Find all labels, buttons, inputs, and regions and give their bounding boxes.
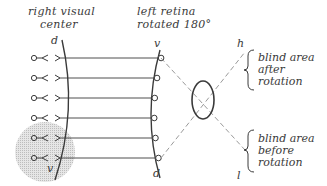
upper-note-line3: rotation	[258, 76, 315, 88]
retina-bottom-pole: d	[153, 168, 160, 179]
diagram-stage: right visual center left retina rotated …	[0, 0, 327, 186]
retina-title-line2: rotated 180°	[137, 19, 211, 30]
lower-brace	[244, 130, 254, 172]
projection-line-up	[161, 52, 245, 158]
neuron-cell-icon	[31, 75, 36, 80]
neuron-cell-icon	[31, 55, 36, 60]
retina-cell-icon	[151, 115, 157, 121]
center-top-pole: d	[51, 35, 58, 46]
neuron-cell-icon	[31, 95, 36, 100]
synapse-left-icon	[42, 115, 48, 121]
retina-title-line1: left retina	[137, 6, 211, 17]
retina-cell-icon	[154, 75, 160, 81]
field-bottom-pole: l	[237, 170, 241, 181]
neuron-cell-icon	[31, 115, 36, 120]
synapse-right-icon	[55, 55, 60, 61]
synapse-right-icon	[55, 95, 60, 101]
synapse-right-icon	[55, 75, 60, 81]
synapse-left-icon	[42, 75, 48, 81]
neuron-row	[31, 115, 157, 121]
lens-ellipse	[192, 81, 214, 119]
synapse-left-icon	[42, 95, 48, 101]
blind-area-after-note: blind area after rotation	[258, 52, 315, 88]
synapse-right-icon	[55, 115, 60, 121]
retina-title: left retina rotated 180°	[137, 6, 211, 30]
synapse-left-icon	[42, 55, 48, 61]
visual-center-title-line2: center	[40, 19, 95, 30]
projection-line-down	[161, 58, 245, 150]
neuron-row	[31, 95, 157, 101]
blind-area-before-note: blind area before rotation	[258, 133, 315, 169]
upper-brace	[244, 50, 254, 90]
center-bottom-pole: v	[47, 163, 53, 174]
retina-cell-icon	[152, 95, 158, 101]
field-top-pole: h	[237, 38, 244, 49]
retina-top-pole: v	[154, 38, 160, 49]
neuron-row	[31, 75, 159, 81]
visual-center-title: right visual center	[28, 6, 95, 30]
retina-cell-icon	[153, 135, 159, 141]
visual-center-title-line1: right visual	[28, 6, 95, 17]
neuron-row	[31, 55, 163, 61]
retina-cell-icon	[156, 155, 162, 161]
lower-note-line3: rotation	[258, 157, 315, 169]
